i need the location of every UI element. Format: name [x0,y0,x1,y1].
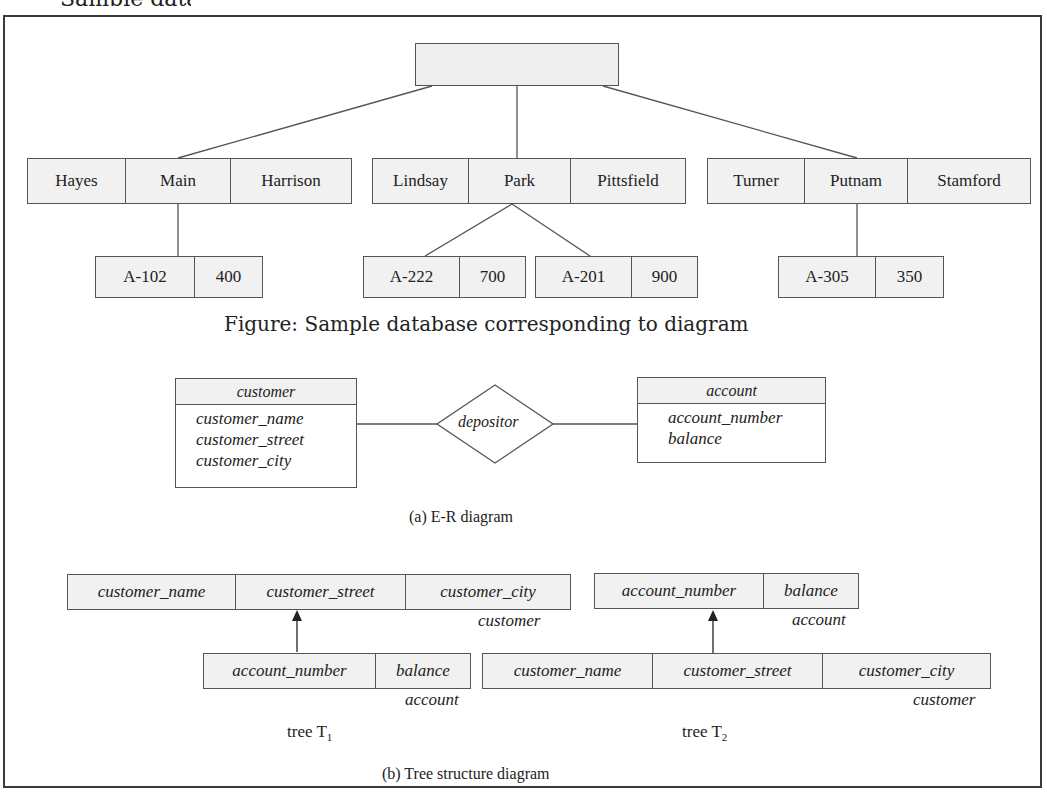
tree2-child-type-label: customer [913,690,975,710]
field-cell: customer_name [483,654,653,688]
customer-city-cell: Pittsfield [571,159,685,203]
customer-record-lindsay: Lindsay Park Pittsfield [372,158,686,204]
attribute: customer_street [196,429,356,450]
account-number-cell: A-102 [96,257,195,297]
entity-account: account account_number balance [637,377,826,463]
tree-label-subscript: 1 [327,731,333,743]
attribute: customer_city [196,450,356,471]
attribute: account_number [668,407,825,428]
balance-cell: 350 [876,257,943,297]
tree-label-subscript: 2 [722,731,728,743]
account-record-a222: A-222 700 [363,256,526,298]
customer-street-cell: Main [126,159,231,203]
field-cell: balance [376,654,470,688]
tree-label-text: tree T [287,722,327,741]
tree-label-text: tree T [682,722,722,741]
balance-cell: 700 [460,257,525,297]
root-record [415,43,619,86]
er-diagram-caption: (a) E-R diagram [409,508,513,526]
tree2-label: tree T2 [682,722,727,743]
tree1-child-record: account_number balance [203,653,471,689]
balance-cell: 900 [632,257,697,297]
customer-record-hayes: Hayes Main Harrison [27,158,352,204]
tree2-parent-record: account_number balance [594,573,859,609]
tree2-child-record: customer_name customer_street customer_c… [482,653,991,689]
field-cell: account_number [204,654,376,688]
customer-city-cell: Stamford [908,159,1030,203]
field-cell: customer_name [68,575,236,609]
page-title-partial: Sample database [0,0,191,6]
field-cell: balance [764,574,858,608]
field-cell: customer_city [823,654,990,688]
customer-street-cell: Putnam [805,159,908,203]
attribute: customer_name [196,408,356,429]
customer-name-cell: Lindsay [373,159,469,203]
field-cell: account_number [595,574,764,608]
customer-name-cell: Hayes [28,159,126,203]
entity-attributes: customer_name customer_street customer_c… [176,405,356,471]
balance-cell: 400 [195,257,262,297]
account-record-a201: A-201 900 [535,256,698,298]
entity-attributes: account_number balance [638,404,825,449]
customer-street-cell: Park [469,159,571,203]
field-cell: customer_city [406,575,570,609]
sample-database-caption: Figure: Sample database corresponding to… [224,312,749,336]
account-record-a305: A-305 350 [778,256,944,298]
tree2-parent-type-label: account [792,610,846,630]
tree1-child-type-label: account [405,690,459,710]
entity-name: customer [176,379,356,405]
tree1-parent-type-label: customer [478,611,540,631]
customer-record-turner: Turner Putnam Stamford [707,158,1031,204]
account-record-a102: A-102 400 [95,256,263,298]
relationship-depositor: depositor [458,413,518,431]
customer-name-cell: Turner [708,159,805,203]
account-number-cell: A-305 [779,257,876,297]
page-title-text: Sample database [60,0,191,6]
attribute: balance [668,428,825,449]
account-number-cell: A-222 [364,257,460,297]
account-number-cell: A-201 [536,257,632,297]
customer-city-cell: Harrison [231,159,351,203]
field-cell: customer_street [236,575,406,609]
field-cell: customer_street [653,654,823,688]
entity-customer: customer customer_name customer_street c… [175,378,357,488]
tree1-label: tree T1 [287,722,332,743]
tree-structure-caption: (b) Tree structure diagram [382,765,550,783]
entity-name: account [638,378,825,404]
tree1-parent-record: customer_name customer_street customer_c… [67,574,571,610]
